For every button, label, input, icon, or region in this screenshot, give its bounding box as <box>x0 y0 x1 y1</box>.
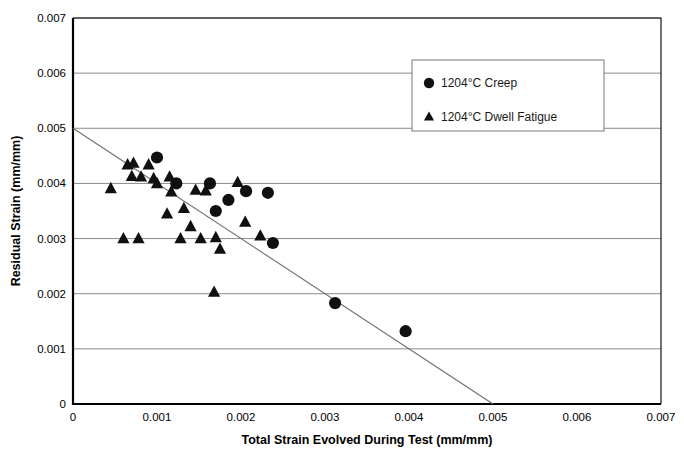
x-tick-label: 0 <box>70 411 76 423</box>
data-point-circle <box>329 297 341 309</box>
trendline-path <box>73 128 493 404</box>
scatter-plot: 00.0010.0020.0030.0040.0050.0060.007 00.… <box>0 0 684 459</box>
data-point-circle <box>262 187 274 199</box>
y-tick-label: 0.003 <box>37 233 66 245</box>
data-point-triangle <box>164 170 176 181</box>
series-creep <box>151 151 412 337</box>
data-point-triangle <box>117 232 129 243</box>
data-point-triangle <box>195 232 207 243</box>
data-point-circle <box>151 151 163 163</box>
legend: 1204°C Creep 1204°C Dwell Fatigue <box>412 60 604 131</box>
x-tick-label: 0.001 <box>143 411 172 423</box>
x-tick-label: 0.005 <box>479 411 508 423</box>
series-dwell-fatigue <box>105 156 267 296</box>
y-tick-label: 0.002 <box>37 288 66 300</box>
data-point-triangle <box>126 170 138 181</box>
legend-marker-circle-icon <box>424 78 434 88</box>
y-tick-label: 0.007 <box>37 12 66 24</box>
data-point-circle <box>267 237 279 249</box>
data-point-triangle <box>190 183 202 194</box>
legend-label-creep: 1204°C Creep <box>441 76 518 90</box>
data-point-triangle <box>239 215 251 226</box>
data-point-circle <box>222 194 234 206</box>
y-axis-tick-labels: 00.0010.0020.0030.0040.0050.0060.007 <box>37 12 66 410</box>
data-point-circle <box>210 205 222 217</box>
y-tick-label: 0.005 <box>37 122 66 134</box>
x-tick-label: 0.004 <box>395 411 424 423</box>
data-point-triangle <box>174 232 186 243</box>
x-tick-label: 0.007 <box>647 411 676 423</box>
y-tick-label: 0.006 <box>37 67 66 79</box>
y-axis-title: Residual Strain (mm/mm) <box>9 136 23 287</box>
data-point-triangle <box>161 207 173 218</box>
y-tick-label: 0.004 <box>37 177 66 189</box>
data-point-triangle <box>254 229 266 240</box>
trendline <box>73 128 493 404</box>
x-axis-tick-labels: 00.0010.0020.0030.0040.0050.0060.007 <box>70 411 676 423</box>
y-tick-label: 0.001 <box>37 343 66 355</box>
data-point-triangle <box>232 176 244 187</box>
data-point-triangle <box>210 231 222 242</box>
data-point-triangle <box>208 285 220 296</box>
chart-figure: 00.0010.0020.0030.0040.0050.0060.007 00.… <box>0 0 684 459</box>
x-tick-label: 0.006 <box>563 411 592 423</box>
legend-label-dwell-fatigue: 1204°C Dwell Fatigue <box>441 110 558 124</box>
x-tick-label: 0.003 <box>311 411 340 423</box>
data-point-triangle <box>214 242 226 253</box>
x-axis-title: Total Strain Evolved During Test (mm/mm) <box>242 433 493 447</box>
data-points <box>105 151 412 337</box>
data-point-triangle <box>132 232 144 243</box>
y-tick-label: 0 <box>60 398 66 410</box>
data-point-triangle <box>185 220 197 231</box>
data-point-circle <box>400 325 412 337</box>
x-tick-label: 0.002 <box>227 411 256 423</box>
